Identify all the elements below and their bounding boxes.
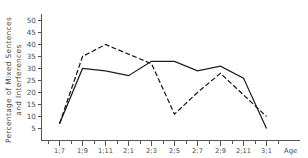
x-tick-label-4: 2;3	[146, 147, 157, 155]
y-tick-label-5: 5	[31, 124, 36, 133]
x-tick-label-8: 2;11	[236, 147, 251, 155]
x-tick-label-1: 1;9	[77, 147, 88, 155]
x-tick-label-0: 1;7	[54, 147, 65, 155]
y-axis-ticks: 5 10 15 20 25 30 35 40 45 50	[27, 16, 42, 133]
y-tick-label-30: 30	[27, 64, 37, 73]
y-tick-label-15: 15	[27, 100, 36, 109]
x-tick-label-7: 2;9	[215, 147, 226, 155]
y-tick-label-40: 40	[27, 40, 37, 49]
y-tick-label-10: 10	[27, 112, 37, 121]
data-line-solid	[60, 61, 267, 128]
x-tick-label-2: 1;11	[98, 147, 113, 155]
chart-figure: Percentage of Mixed Sentences and Interf…	[0, 0, 308, 158]
y-tick-label-35: 35	[27, 52, 36, 61]
y-axis-title-line2: and Interferences	[14, 44, 23, 115]
x-tick-label-5: 2;5	[169, 147, 180, 155]
data-line-dashed	[60, 45, 267, 124]
x-axis-title: Age	[284, 147, 297, 155]
y-tick-label-20: 20	[27, 88, 37, 97]
y-tick-label-50: 50	[27, 16, 37, 25]
x-tick-label-9: 3;1	[261, 147, 272, 155]
y-axis-title-line1: Percentage of Mixed Sentences	[4, 17, 13, 143]
x-tick-label-6: 2;7	[192, 147, 203, 155]
x-tick-label-3: 2;1	[123, 147, 134, 155]
line-chart-canvas: Percentage of Mixed Sentences and Interf…	[0, 0, 308, 158]
y-tick-label-45: 45	[27, 28, 36, 37]
y-axis-title: Percentage of Mixed Sentences and Interf…	[4, 17, 23, 143]
y-tick-label-25: 25	[27, 76, 36, 85]
